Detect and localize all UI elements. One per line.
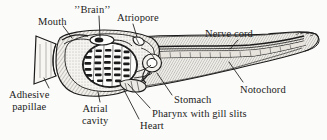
label-mouth: Mouth — [38, 16, 67, 28]
label-atrial-cavity: Atrial cavity — [82, 103, 108, 126]
anatomy-figure: Mouth ’’Brain’’ Atriopore Nerve cord Not… — [0, 0, 327, 140]
label-stomach: Stomach — [174, 94, 211, 106]
label-notochord: Notochord — [240, 84, 286, 96]
label-brain: ’’Brain’’ — [74, 4, 111, 16]
label-nerve-cord: Nerve cord — [205, 28, 253, 40]
adhesive-papillae-structure — [34, 36, 56, 84]
leader-heart — [124, 90, 139, 119]
label-heart: Heart — [140, 120, 164, 132]
label-pharynx-with-gill-slits: Pharynx with gill slits — [152, 108, 247, 120]
label-atriopore: Atriopore — [117, 12, 159, 24]
tail-region — [138, 32, 319, 88]
label-adhesive-papillae: Adhesive papillae — [9, 89, 49, 112]
